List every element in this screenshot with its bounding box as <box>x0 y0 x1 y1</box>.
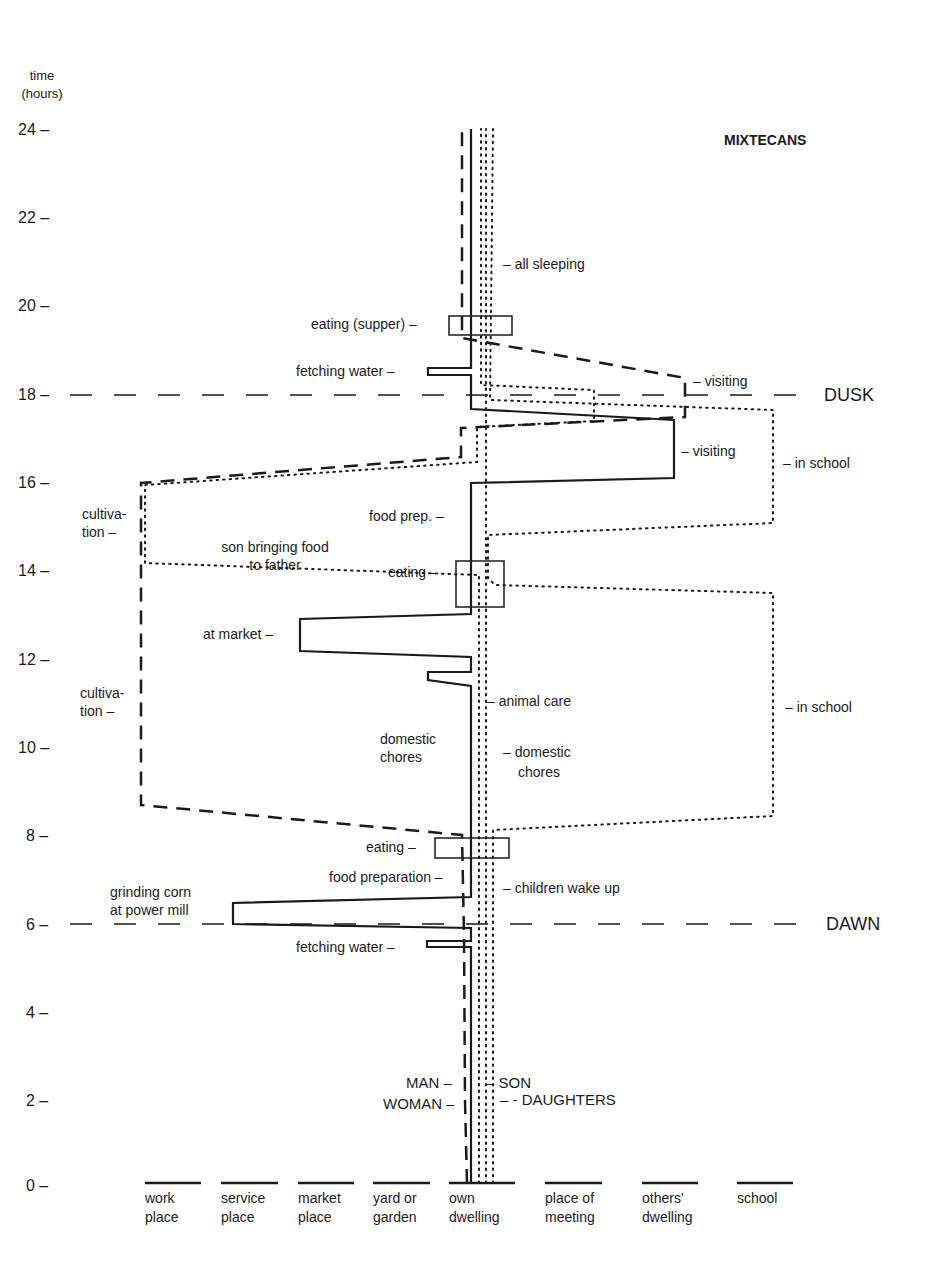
label-animal-care: – animal care <box>487 693 571 709</box>
label-children-wake: – children wake up <box>503 880 620 896</box>
tick-12: 12 – <box>18 651 49 668</box>
tick-8: 8 – <box>26 827 48 844</box>
y-axis-ticks: 24 – 22 – 20 – 18 – 16 – 14 – 12 – 10 – … <box>18 121 49 1194</box>
col-meeting-l2: meeting <box>545 1209 595 1225</box>
x-axis-labels: work place service place market place ya… <box>144 1190 777 1225</box>
col-service-l2: place <box>221 1209 255 1225</box>
tick-14: 14 – <box>18 562 49 579</box>
label-visiting-woman: – visiting <box>681 443 735 459</box>
label-dom-chores-daughters-1: – domestic <box>503 744 571 760</box>
label-son-food-2: to father <box>249 557 301 573</box>
legend-daughters: – - DAUGHTERS <box>500 1091 616 1108</box>
label-fetching-water-pm: fetching water – <box>296 363 395 379</box>
y-axis-label-line2: (hours) <box>21 86 62 101</box>
label-cultivation-1b: tion – <box>82 524 116 540</box>
dawn-label: DAWN <box>826 914 880 934</box>
eating-boxes <box>435 316 512 858</box>
daughters-path <box>488 129 773 1183</box>
col-market-l2: place <box>298 1209 332 1225</box>
tick-2: 2 – <box>26 1092 48 1109</box>
annotations: – all sleeping eating (supper) – fetchin… <box>80 256 852 955</box>
col-others-l2: dwelling <box>642 1209 693 1225</box>
label-food-prep: food prep. – <box>369 508 444 524</box>
space-time-chart: time (hours) 24 – 22 – 20 – 18 – 16 – 14… <box>0 0 939 1281</box>
label-at-market: at market – <box>203 626 273 642</box>
dusk-label: DUSK <box>824 385 874 405</box>
legend-woman: WOMAN – <box>383 1095 455 1112</box>
tick-16: 16 – <box>18 474 49 491</box>
label-cultivation-2b: tion – <box>80 703 114 719</box>
col-yard-l1: yard or <box>373 1190 417 1206</box>
chart-title: MIXTECANS <box>724 132 806 148</box>
col-market-l1: market <box>298 1190 341 1206</box>
tick-6: 6 – <box>26 916 48 933</box>
col-meeting-l1: place of <box>545 1190 594 1206</box>
label-fetching-water-am: fetching water – <box>296 939 395 955</box>
label-cultivation-2a: cultiva- <box>80 685 125 701</box>
tick-24: 24 – <box>18 121 49 138</box>
label-grinding-1: grinding corn <box>110 884 191 900</box>
col-own-l1: own <box>449 1190 475 1206</box>
col-school-l1: school <box>737 1190 777 1206</box>
label-dom-chores-woman-2: chores <box>380 749 422 765</box>
label-son-food-1: son bringing food <box>221 539 328 555</box>
tick-4: 4 – <box>26 1004 48 1021</box>
son-path <box>145 129 594 1183</box>
col-work-l1: work <box>144 1190 176 1206</box>
col-work-l2: place <box>145 1209 179 1225</box>
label-cultivation-1a: cultiva- <box>82 506 127 522</box>
label-eating-noon: eating – <box>388 564 438 580</box>
tick-10: 10 – <box>18 739 49 756</box>
label-visiting-man: – visiting <box>693 373 747 389</box>
label-dom-chores-daughters-2: chores <box>518 764 560 780</box>
col-yard-l2: garden <box>373 1209 417 1225</box>
y-axis-label-line1: time <box>30 68 55 83</box>
woman-path <box>233 129 674 1183</box>
label-grinding-2: at power mill <box>110 902 189 918</box>
label-eating-supper: eating (supper) – <box>311 316 417 332</box>
legend-son: – SON <box>486 1074 531 1091</box>
label-eating-am: eating – <box>366 839 416 855</box>
label-all-sleeping: – all sleeping <box>503 256 585 272</box>
tick-22: 22 – <box>18 209 49 226</box>
label-dom-chores-woman-1: domestic <box>380 731 436 747</box>
tick-20: 20 – <box>18 297 49 314</box>
label-in-school-am: – in school <box>785 699 852 715</box>
tick-0: 0 – <box>26 1177 48 1194</box>
col-own-l2: dwelling <box>449 1209 500 1225</box>
col-others-l1: others' <box>642 1190 684 1206</box>
label-food-preparation: food preparation – <box>329 869 443 885</box>
legend: MAN – WOMAN – – SON – - DAUGHTERS <box>383 1074 616 1112</box>
legend-man: MAN – <box>406 1074 453 1091</box>
label-in-school-pm: – in school <box>783 455 850 471</box>
tick-18: 18 – <box>18 386 49 403</box>
col-service-l1: service <box>221 1190 266 1206</box>
